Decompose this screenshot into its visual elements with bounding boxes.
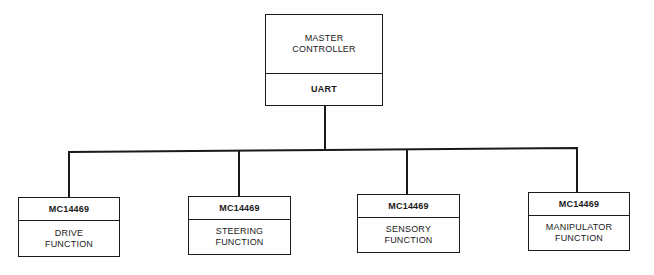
function-line2: FUNCTION bbox=[45, 239, 93, 250]
sensory-function-block: MC14469 SENSORY FUNCTION bbox=[357, 194, 460, 253]
chip-label: MC14469 bbox=[189, 197, 290, 220]
function-line1: DRIVE bbox=[45, 228, 93, 239]
function-line1: MANIPULATOR bbox=[546, 222, 612, 233]
chip-label: MC14469 bbox=[19, 198, 119, 221]
function-line2: FUNCTION bbox=[215, 237, 263, 248]
master-controller-label: MASTER CONTROLLER bbox=[266, 15, 382, 74]
manipulator-function-block: MC14469 MANIPULATOR FUNCTION bbox=[528, 192, 630, 251]
uart-section: UART bbox=[266, 74, 382, 105]
function-line2: FUNCTION bbox=[384, 235, 432, 246]
master-label-line1: MASTER bbox=[292, 33, 356, 44]
function-line1: SENSORY bbox=[384, 224, 432, 235]
function-line1: STEERING bbox=[215, 226, 263, 237]
chip-label: MC14469 bbox=[529, 193, 629, 216]
function-label: MANIPULATOR FUNCTION bbox=[529, 216, 629, 250]
master-controller-block: MASTER CONTROLLER UART bbox=[265, 14, 383, 106]
drive-function-block: MC14469 DRIVE FUNCTION bbox=[18, 197, 120, 257]
function-label: STEERING FUNCTION bbox=[189, 220, 290, 254]
chip-label: MC14469 bbox=[358, 195, 459, 218]
function-label: SENSORY FUNCTION bbox=[358, 218, 459, 252]
function-line2: FUNCTION bbox=[546, 233, 612, 244]
function-label: DRIVE FUNCTION bbox=[19, 221, 119, 256]
steering-function-block: MC14469 STEERING FUNCTION bbox=[188, 196, 291, 255]
master-label-line2: CONTROLLER bbox=[292, 44, 356, 55]
